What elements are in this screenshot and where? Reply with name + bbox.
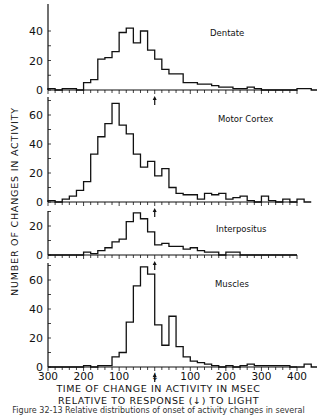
motor-cortex-y-tick-label: 40	[29, 138, 43, 151]
x-tick-label: 300	[38, 370, 58, 382]
motor-cortex-panel-label: Motor Cortex	[218, 114, 273, 124]
response-arrowhead-icon	[153, 261, 157, 265]
muscles-histogram	[48, 267, 317, 367]
x-tick-label: 200	[74, 370, 94, 382]
histogram-figure: 02040Dentate0204060Motor Cortex020Interp…	[0, 0, 317, 417]
x-tick-label: 300	[251, 370, 271, 382]
x-tick-label: 400	[287, 370, 307, 382]
x-tick-label: 100	[109, 370, 129, 382]
x-tick-label: 200	[216, 370, 236, 382]
dentate-y-tick-label: 0	[36, 84, 43, 97]
dentate-y-tick-label: 20	[29, 55, 43, 68]
x-tick-label: ↓	[151, 371, 159, 382]
dentate-panel-label: Dentate	[210, 28, 244, 38]
muscles-y-tick-label: 40	[29, 303, 43, 316]
motor-cortex-y-tick-label: 60	[29, 109, 43, 122]
interpositus-y-tick-label: 0	[36, 249, 43, 262]
x-axis-label-line1: TIME OF CHANGE IN ACTIVITY IN MSEC	[0, 383, 317, 394]
muscles-panel-label: Muscles	[215, 279, 249, 289]
dentate-y-tick-label: 40	[29, 25, 43, 38]
muscles-y-tick-label: 20	[29, 332, 43, 345]
interpositus-y-tick-label: 20	[29, 220, 43, 233]
motor-cortex-y-tick-label: 0	[36, 196, 43, 209]
figure-caption: Figure 32-13 Relative distributions of o…	[0, 406, 317, 415]
muscles-y-tick-label: 60	[29, 274, 43, 287]
x-tick-label: 100	[180, 370, 200, 382]
x-axis-label-line2: RELATIVE TO RESPONSE (↓) TO LIGHT	[0, 395, 317, 406]
y-axis-label: NUMBER OF CHANGES IN ACTIVITY	[9, 92, 20, 312]
dentate-histogram	[48, 28, 317, 90]
response-arrowhead-icon	[153, 208, 157, 212]
motor-cortex-y-tick-label: 20	[29, 167, 43, 180]
response-arrowhead-icon	[153, 96, 157, 100]
interpositus-panel-label: Interpositus	[216, 224, 267, 234]
